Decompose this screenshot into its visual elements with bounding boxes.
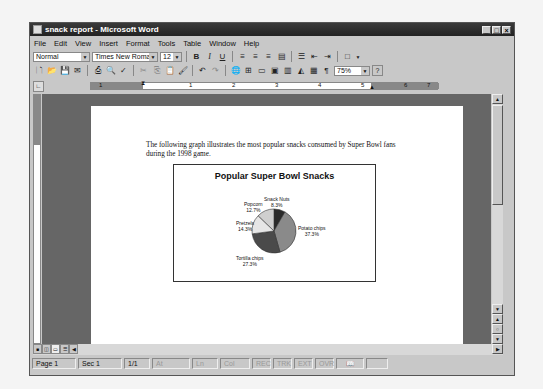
separator bbox=[291, 51, 292, 62]
normal-view-icon[interactable]: ■ bbox=[33, 344, 42, 354]
insert-excel-icon[interactable]: ▣ bbox=[269, 65, 280, 76]
insert-table-icon[interactable]: ▭ bbox=[256, 65, 267, 76]
bullets-icon[interactable]: ☰ bbox=[296, 51, 307, 62]
label-tortilla-chips: Tortilla chips 27.3% bbox=[236, 255, 264, 267]
previous-page-icon[interactable]: ▲ bbox=[492, 314, 503, 324]
vertical-ruler[interactable] bbox=[33, 94, 41, 344]
align-left-icon[interactable]: ≡ bbox=[237, 51, 248, 62]
separator bbox=[192, 65, 193, 76]
status-rec[interactable]: REC bbox=[252, 358, 271, 369]
status-page: Page 1 bbox=[32, 358, 76, 369]
print-preview-icon[interactable]: 🔍 bbox=[105, 65, 116, 76]
email-icon[interactable]: ✉ bbox=[72, 65, 83, 76]
menu-tools[interactable]: Tools bbox=[158, 39, 176, 48]
chevron-down-icon[interactable]: ▼ bbox=[355, 51, 361, 62]
ruler-number: 5 bbox=[361, 82, 364, 88]
ruler-number: 2 bbox=[232, 82, 235, 88]
label-potato-chips: Potato chips 37.3% bbox=[298, 225, 326, 237]
formatting-toolbar: Normal ▼ Times New Roman ▼ 12 ▼ B I U ≡ … bbox=[30, 50, 514, 63]
status-ovr[interactable]: OVR bbox=[315, 358, 334, 369]
menu-edit[interactable]: Edit bbox=[54, 39, 67, 48]
menu-format[interactable]: Format bbox=[126, 39, 150, 48]
print-layout-view-icon[interactable]: ▭ bbox=[51, 344, 60, 354]
open-folder-icon[interactable]: 📂 bbox=[46, 65, 57, 76]
scroll-right-icon[interactable]: ▶ bbox=[492, 344, 503, 354]
scroll-down-icon[interactable]: ▼ bbox=[492, 304, 503, 314]
separator bbox=[186, 51, 187, 62]
status-ln: Ln bbox=[192, 358, 218, 369]
document-page[interactable]: The following graph illustrates the most… bbox=[91, 106, 463, 344]
menu-file[interactable]: File bbox=[34, 39, 46, 48]
menu-help[interactable]: Help bbox=[244, 39, 259, 48]
increase-indent-icon[interactable]: ⇥ bbox=[322, 51, 333, 62]
restore-button[interactable]: □ bbox=[492, 26, 501, 34]
vertical-scrollbar[interactable]: ▲ ▼ ▲ ○ ▼ bbox=[492, 94, 503, 344]
word-app-icon[interactable] bbox=[33, 25, 42, 34]
title-bar: snack report - Microsoft Word _ □ × bbox=[30, 23, 514, 36]
cut-icon[interactable]: ✂ bbox=[138, 65, 149, 76]
format-painter-icon[interactable]: 🖌 bbox=[177, 65, 188, 76]
font-size-dropdown[interactable]: 12 ▼ bbox=[160, 52, 182, 62]
status-bar: Page 1 Sec 1 1/1 At Ln Col REC TRK EXT O… bbox=[30, 356, 514, 370]
horizontal-scrollbar[interactable]: ■ ◫ ▭ ☰ ◀ ▶ bbox=[33, 344, 503, 355]
decrease-indent-icon[interactable]: ⇤ bbox=[309, 51, 320, 62]
separator bbox=[337, 51, 338, 62]
label-pct: 12.7% bbox=[244, 207, 263, 213]
align-center-icon[interactable]: ≡ bbox=[250, 51, 261, 62]
borders-icon[interactable]: □ bbox=[342, 51, 353, 62]
paste-icon[interactable]: 📋 bbox=[164, 65, 175, 76]
scroll-up-icon[interactable]: ▲ bbox=[492, 94, 503, 104]
show-hide-icon[interactable]: ¶ bbox=[321, 65, 332, 76]
hyperlink-icon[interactable]: 🌐 bbox=[230, 65, 241, 76]
chevron-down-icon: ▼ bbox=[149, 53, 157, 61]
pie-chart[interactable]: Popular Super Bowl Snacks bbox=[173, 164, 376, 282]
menu-table[interactable]: Table bbox=[183, 39, 201, 48]
intro-paragraph[interactable]: The following graph illustrates the most… bbox=[146, 141, 406, 158]
underline-button[interactable]: U bbox=[217, 51, 228, 62]
indent-marker-icon[interactable]: ⧗ bbox=[141, 80, 145, 87]
status-ext[interactable]: EXT bbox=[294, 358, 313, 369]
style-dropdown[interactable]: Normal ▼ bbox=[33, 52, 90, 62]
tables-borders-icon[interactable]: ⊞ bbox=[243, 65, 254, 76]
status-trk[interactable]: TRK bbox=[273, 358, 292, 369]
ruler-number: 1 bbox=[99, 82, 102, 88]
columns-icon[interactable]: ▥ bbox=[282, 65, 293, 76]
redo-icon[interactable]: ↷ bbox=[210, 65, 221, 76]
zoom-dropdown[interactable]: 75% ▼ bbox=[334, 66, 370, 76]
font-dropdown[interactable]: Times New Roman ▼ bbox=[92, 52, 158, 62]
right-indent-marker-icon[interactable]: ▲ bbox=[369, 84, 375, 90]
top-margin-area bbox=[34, 95, 40, 145]
align-right-icon[interactable]: ≡ bbox=[263, 51, 274, 62]
save-icon[interactable]: 💾 bbox=[59, 65, 70, 76]
tab-selector-icon[interactable]: ∟ bbox=[33, 81, 44, 92]
horizontal-ruler[interactable]: 1 1 2 3 4 5 6 7 ⧗ ▲ bbox=[90, 82, 438, 90]
print-icon[interactable]: ⎙ bbox=[92, 65, 103, 76]
document-map-icon[interactable]: ▦ bbox=[308, 65, 319, 76]
spelling-status-icon[interactable]: 📖 bbox=[336, 358, 364, 369]
justify-icon[interactable]: ▤ bbox=[276, 51, 287, 62]
menu-insert[interactable]: Insert bbox=[99, 39, 118, 48]
new-document-icon[interactable]: 🗋 bbox=[33, 65, 44, 76]
ruler-row: ∟ 1 1 2 3 4 5 6 7 ⧗ ▲ bbox=[30, 79, 514, 93]
web-layout-view-icon[interactable]: ◫ bbox=[42, 344, 51, 354]
style-value: Normal bbox=[36, 53, 59, 60]
scroll-left-icon[interactable]: ◀ bbox=[69, 344, 78, 354]
word-window: snack report - Microsoft Word _ □ × File… bbox=[29, 22, 515, 376]
outline-view-icon[interactable]: ☰ bbox=[60, 344, 69, 354]
font-size-value: 12 bbox=[163, 53, 171, 60]
undo-icon[interactable]: ↶ bbox=[197, 65, 208, 76]
minimize-button[interactable]: _ bbox=[482, 26, 491, 34]
select-browse-object-icon[interactable]: ○ bbox=[492, 324, 503, 334]
help-button[interactable]: ? bbox=[372, 65, 383, 76]
menu-window[interactable]: Window bbox=[209, 39, 236, 48]
ruler-number: 7 bbox=[427, 82, 430, 88]
copy-icon[interactable]: ⎘ bbox=[151, 65, 162, 76]
vertical-scroll-thumb[interactable] bbox=[492, 105, 503, 205]
close-button[interactable]: × bbox=[502, 26, 511, 34]
next-page-icon[interactable]: ▼ bbox=[492, 334, 503, 344]
italic-button[interactable]: I bbox=[204, 51, 215, 62]
spelling-icon[interactable]: ✓ bbox=[118, 65, 129, 76]
drawing-icon[interactable]: ◭ bbox=[295, 65, 306, 76]
bold-button[interactable]: B bbox=[191, 51, 202, 62]
menu-view[interactable]: View bbox=[75, 39, 91, 48]
